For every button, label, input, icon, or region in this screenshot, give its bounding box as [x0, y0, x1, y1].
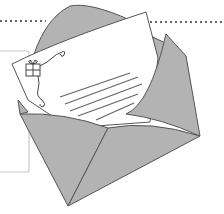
envelope-svg: [0, 0, 224, 214]
envelope-illustration: [0, 0, 224, 214]
